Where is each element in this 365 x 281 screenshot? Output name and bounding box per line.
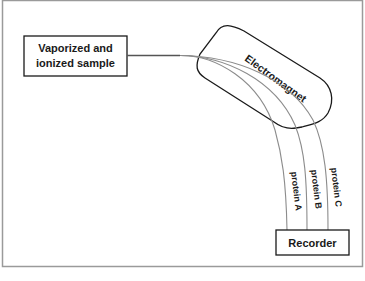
beam-label-protein-a: protein A: [289, 171, 304, 212]
source-box-line-2: ionized sample: [36, 57, 115, 69]
beam-label-protein-c: protein C: [329, 167, 344, 208]
source-box: Vaporized and ionized sample: [24, 36, 127, 76]
mass-spectrometer-diagram: Vaporized and ionized sample Electromagn…: [0, 0, 365, 281]
source-box-line-1: Vaporized and: [38, 42, 113, 54]
recorder-label: Recorder: [288, 237, 337, 249]
beam-label-protein-b: protein B: [309, 169, 324, 210]
recorder-box: Recorder: [276, 230, 349, 255]
